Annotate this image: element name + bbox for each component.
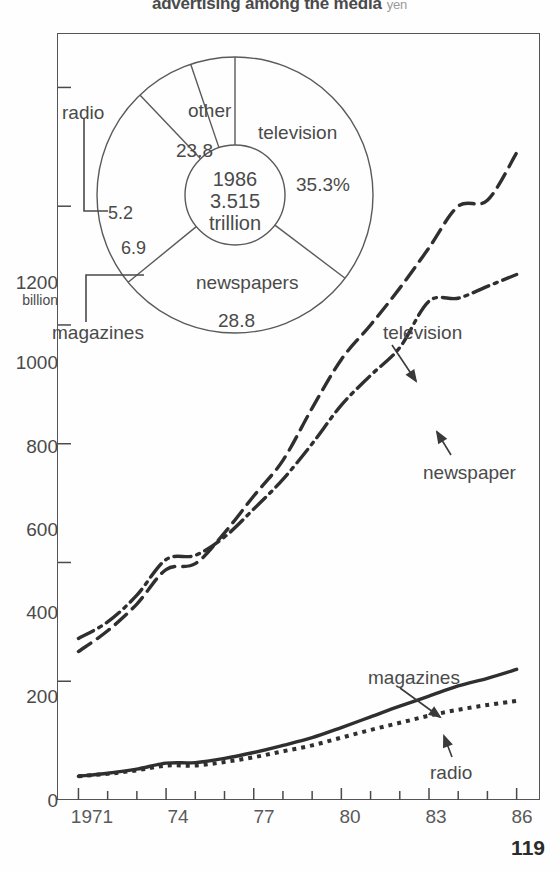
pie-label-magazines: magazines xyxy=(52,322,144,344)
x-tick-80: 80 xyxy=(324,806,376,828)
pie-value-television: 35.3% xyxy=(296,174,350,196)
series-label-text: newspaper xyxy=(423,462,516,483)
y-tick-label: 1000 xyxy=(16,352,58,373)
arrow-television-head xyxy=(407,370,416,381)
x-tick-label: 80 xyxy=(339,806,360,827)
page-number: 119 xyxy=(511,836,545,860)
pie-center-unit: trillion xyxy=(185,212,285,234)
y-tick-label: 800 xyxy=(26,436,58,457)
pie-label-television: television xyxy=(258,122,337,144)
pie-value-text: 28.8 xyxy=(218,310,255,331)
series-label-text: television xyxy=(383,322,462,343)
y-tick-label: 1200 xyxy=(16,272,58,293)
pie-value-other: 23.8 xyxy=(176,140,213,162)
series-label-television: television xyxy=(383,322,462,344)
x-tick-label: 74 xyxy=(167,806,188,827)
pie-slice-divider-newspapers xyxy=(275,225,345,278)
pie-label-radio: radio xyxy=(62,102,104,124)
y-tick-label: 200 xyxy=(26,686,58,707)
series-path-television xyxy=(78,153,516,652)
y-tick-800: 800 xyxy=(0,436,58,458)
arrow-newspaper-head xyxy=(437,432,446,443)
pie-label-other: other xyxy=(188,100,231,122)
y-tick-200: 200 xyxy=(0,686,58,708)
pie-center-label: 1986 3.515 trillion xyxy=(185,168,285,234)
pie-label-text: other xyxy=(188,100,231,121)
pie-value-magazines: 6.9 xyxy=(121,238,146,259)
series-label-text: radio xyxy=(430,762,472,783)
y-tick-label: 400 xyxy=(26,602,58,623)
leader-line-magazines xyxy=(86,275,144,322)
pie-label-text: television xyxy=(258,122,337,143)
x-tick-label: 83 xyxy=(425,806,446,827)
x-tick-77: 77 xyxy=(238,806,290,828)
series-label-magazines: magazines xyxy=(368,667,460,689)
annotation-arrows xyxy=(392,345,452,757)
leader-line-radio xyxy=(84,118,108,211)
y-tick-600: 600 xyxy=(0,519,58,541)
pie-value-text: 5.2 xyxy=(108,203,133,223)
x-tick-83: 83 xyxy=(410,806,462,828)
y-tick-label: 0 xyxy=(47,790,58,811)
y-tick-0: 0 xyxy=(0,790,58,812)
axis-ticks xyxy=(58,87,517,800)
y-tick-400: 400 xyxy=(0,602,58,624)
arrow-radio-head xyxy=(444,736,452,747)
x-tick-label: 1971 xyxy=(71,806,113,827)
series-label-text: magazines xyxy=(368,667,460,688)
y-tick-1200: 1200 billion xyxy=(0,272,58,307)
y-tick-1000: 1000 xyxy=(0,352,58,374)
pie-label-newspapers: newspapers xyxy=(196,272,298,294)
pie-label-text: radio xyxy=(62,102,104,123)
series-label-radio: radio xyxy=(430,762,472,784)
y-tick-label: 600 xyxy=(26,519,58,540)
x-tick-label: 77 xyxy=(253,806,274,827)
chart-page: advertising among the mediayen 1200 bill… xyxy=(0,0,559,872)
pie-value-text: 35.3% xyxy=(296,174,350,195)
y-axis-unit: billion xyxy=(0,294,58,307)
pie-value-newspapers: 28.8 xyxy=(218,310,255,332)
pie-value-text: 23.8 xyxy=(176,140,213,161)
arrow-magazines-head xyxy=(429,708,440,717)
pie-value-text: 6.9 xyxy=(121,238,146,258)
x-tick-label: 86 xyxy=(511,806,532,827)
series-label-newspaper: newspaper xyxy=(423,462,516,484)
x-tick-74: 74 xyxy=(152,806,204,828)
pie-label-text: newspapers xyxy=(196,272,298,293)
x-tick-1971: 1971 xyxy=(62,806,122,828)
x-tick-86: 86 xyxy=(496,806,548,828)
pie-value-radio: 5.2 xyxy=(108,203,133,224)
pie-label-text: magazines xyxy=(52,322,144,343)
pie-center-amount: 3.515 xyxy=(185,190,285,212)
pie-center-year: 1986 xyxy=(185,168,285,190)
